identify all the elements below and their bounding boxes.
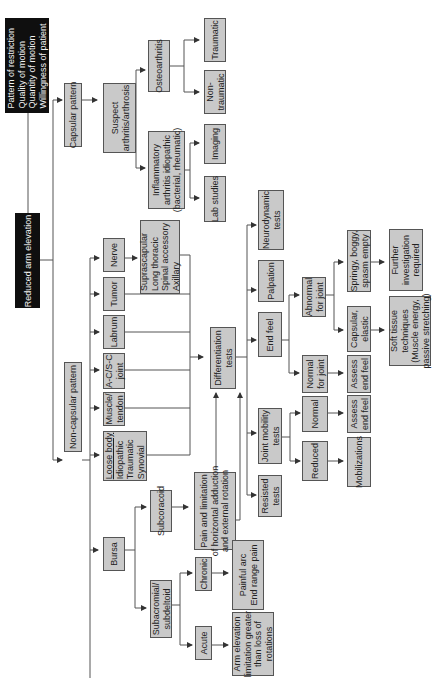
reduced-box: Reduced <box>302 441 328 481</box>
subacromial-box: Subacromial/ subdeltoid <box>150 580 172 638</box>
chronic-box: Chronic <box>195 557 212 591</box>
differentiation-tests-box: Differentiation tests <box>210 327 236 389</box>
imaging-box: Imaging <box>204 124 226 164</box>
further-investigation-box: Further investigation required <box>389 229 423 291</box>
traumatic-box: Traumatic <box>204 18 226 62</box>
assessment-criteria-text: Pattern of restriction Quality of motion… <box>6 23 48 108</box>
capsular-elastic-box: Capsular, elastic <box>347 306 371 352</box>
end-feel-box: End feel <box>258 312 282 357</box>
mobilizations-box: Mobilizations <box>347 437 371 487</box>
acute-sign-box: Arm elevation limitation greater than lo… <box>232 612 274 676</box>
tumor-box: Tumor <box>103 277 125 311</box>
assess-end-feel-box-1: Assess end feel <box>347 355 371 393</box>
palpation-box: Palpation <box>258 260 284 302</box>
subcoracoid-sign-box: Pain and limitation of horizontal adduct… <box>194 472 236 550</box>
resisted-tests-box: Resisted tests <box>258 475 282 517</box>
lab-studies-box: Lab studies <box>204 176 226 222</box>
subcoracoid-box: Subcoracoid <box>150 490 172 532</box>
loose-body-box: Loose body Idiopathic Traumatic Synovial <box>103 431 147 481</box>
chronic-sign-box: Painful arc End range pain <box>232 540 264 610</box>
normal-box: Normal <box>302 396 328 432</box>
ac-sc-joint-box: A-C/S-C joint <box>103 353 125 389</box>
assess-end-feel-box-2: Assess end feel <box>347 395 371 433</box>
normal-for-joint-box: Normal for joint <box>302 355 328 393</box>
labrum-box: Labrum <box>103 315 125 349</box>
soft-tissue-techniques-box: Soft tissue techniques (Muscle energy, p… <box>389 296 431 366</box>
inflammatory-arthritis-box: Inflammatory arthritis idiopathic (bacte… <box>148 131 185 209</box>
root-reduced-arm-elevation: Reduced arm elevation <box>15 213 40 308</box>
springy-boggy-box: Springy, boggy, spasm empty <box>347 230 371 292</box>
osteoarthritis-box: Osteoarthritis <box>148 40 170 92</box>
capsular-pattern-box: Capsular pattern <box>64 83 82 147</box>
nerve-list-box: Suprascapular Long thoracic Spinal acces… <box>140 220 180 294</box>
suspect-arthritis-box: Suspect arthritis/arthrosis <box>103 83 136 153</box>
assessment-criteria-box: Pattern of restriction Quality of motion… <box>5 18 49 113</box>
neurodynamic-tests-box: Neurodynamic tests <box>258 190 284 250</box>
bursa-box: Bursa <box>103 537 125 571</box>
loose-body-title: Loose body <box>104 433 114 480</box>
joint-mobility-tests-box: Joint mobility tests <box>258 408 282 464</box>
loose-body-list: Idiopathic Traumatic Synovial <box>115 440 146 480</box>
nerve-box: Nerve <box>103 238 125 272</box>
acute-box: Acute <box>195 626 212 660</box>
non-capsular-pattern-box: Non-capsular pattern <box>64 362 82 452</box>
non-traumatic-box: Non- traumatic <box>204 70 226 114</box>
muscle-tendon-box: Muscle/ tendon <box>103 392 125 426</box>
abnormal-for-joint-box: Abnormal for joint <box>302 277 326 317</box>
